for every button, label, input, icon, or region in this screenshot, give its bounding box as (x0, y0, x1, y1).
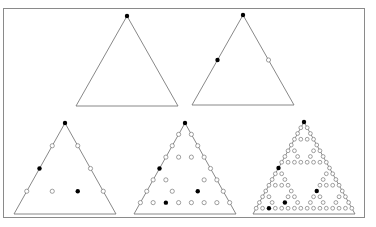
open-dot (270, 201, 274, 205)
open-dot (138, 201, 142, 205)
open-dot (266, 58, 270, 62)
open-dot (312, 137, 316, 141)
open-dot (308, 201, 312, 205)
open-dot (189, 132, 193, 136)
open-dot (151, 201, 155, 205)
open-dot (267, 183, 271, 187)
filled-dot (164, 200, 168, 204)
triangle-outline (76, 16, 178, 106)
filled-dot (76, 189, 80, 193)
open-dot (334, 201, 338, 205)
open-dot (280, 160, 284, 164)
open-dot (293, 206, 297, 210)
sierpinski-diagram (0, 0, 376, 227)
open-dot (177, 201, 181, 205)
open-dot (337, 183, 341, 187)
open-dot (331, 206, 335, 210)
open-dot (318, 160, 322, 164)
open-dot (164, 155, 168, 159)
open-dot (296, 132, 300, 136)
open-dot (261, 195, 265, 199)
filled-dot (302, 120, 306, 124)
open-dot (308, 155, 312, 159)
triangle-outline (253, 122, 355, 214)
open-dot (202, 178, 206, 182)
open-dot (299, 160, 303, 164)
open-dot (257, 201, 261, 205)
open-dot (286, 206, 290, 210)
open-dot (293, 149, 297, 153)
open-dot (318, 149, 322, 153)
open-dot (170, 144, 174, 148)
open-dot (324, 160, 328, 164)
open-dot (289, 143, 293, 147)
filled-dot (276, 166, 280, 170)
open-dot (280, 206, 284, 210)
filled-dot (157, 166, 161, 170)
open-dot (280, 172, 284, 176)
open-dot (267, 195, 271, 199)
open-dot (321, 201, 325, 205)
open-dot (315, 143, 319, 147)
open-dot (88, 166, 92, 170)
open-dot (273, 183, 277, 187)
open-dot (312, 195, 316, 199)
filled-dot (196, 189, 200, 193)
open-dot (215, 178, 219, 182)
filled-dot (125, 14, 129, 18)
triangle-outline (134, 123, 236, 214)
open-dot (283, 178, 287, 182)
triangle-outline (14, 123, 116, 214)
open-dot (324, 183, 328, 187)
open-dot (305, 137, 309, 141)
open-dot (145, 189, 149, 193)
open-dot (299, 206, 303, 210)
panel-2 (192, 13, 294, 105)
open-dot (312, 160, 316, 164)
open-dot (318, 183, 322, 187)
open-dot (347, 201, 351, 205)
open-dot (101, 189, 105, 193)
open-dot (286, 149, 290, 153)
filled-dot (63, 121, 67, 125)
open-dot (228, 201, 232, 205)
open-dot (321, 178, 325, 182)
open-dot (308, 132, 312, 136)
open-dot (318, 195, 322, 199)
open-dot (177, 132, 181, 136)
open-dot (280, 183, 284, 187)
open-dot (208, 166, 212, 170)
open-dot (305, 206, 309, 210)
open-dot (344, 195, 348, 199)
filled-dot (183, 121, 187, 125)
open-dot (283, 155, 287, 159)
open-dot (273, 206, 277, 210)
open-dot (189, 201, 193, 205)
open-dot (350, 206, 354, 210)
filled-dot (241, 13, 245, 17)
filled-dot (315, 189, 319, 193)
open-dot (270, 178, 274, 182)
open-dot (334, 178, 338, 182)
open-dot (189, 155, 193, 159)
open-dot (299, 137, 303, 141)
open-dot (151, 178, 155, 182)
panel-5 (253, 120, 355, 214)
open-dot (221, 189, 225, 193)
open-dot (286, 183, 290, 187)
open-dot (331, 183, 335, 187)
open-dot (254, 206, 258, 210)
open-dot (312, 206, 316, 210)
open-dot (331, 172, 335, 176)
filled-dot (283, 200, 287, 204)
open-dot (337, 195, 341, 199)
open-dot (337, 206, 341, 210)
open-dot (324, 172, 328, 176)
open-dot (312, 149, 316, 153)
open-dot (170, 189, 174, 193)
open-dot (215, 201, 219, 205)
open-dot (299, 126, 303, 130)
open-dot (177, 155, 181, 159)
open-dot (340, 189, 344, 193)
open-dot (202, 201, 206, 205)
